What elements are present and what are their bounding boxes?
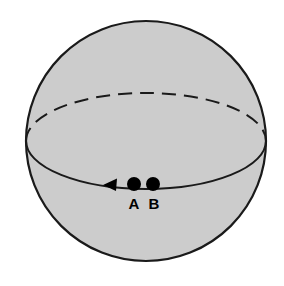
sphere-diagram-canvas: A B [0, 0, 284, 286]
sphere-diagram: A B [0, 0, 284, 286]
point-marker-a [127, 177, 141, 191]
point-label-b: B [149, 195, 160, 212]
sphere-body [26, 21, 266, 261]
point-marker-b [146, 177, 160, 191]
point-label-a: A [129, 195, 140, 212]
